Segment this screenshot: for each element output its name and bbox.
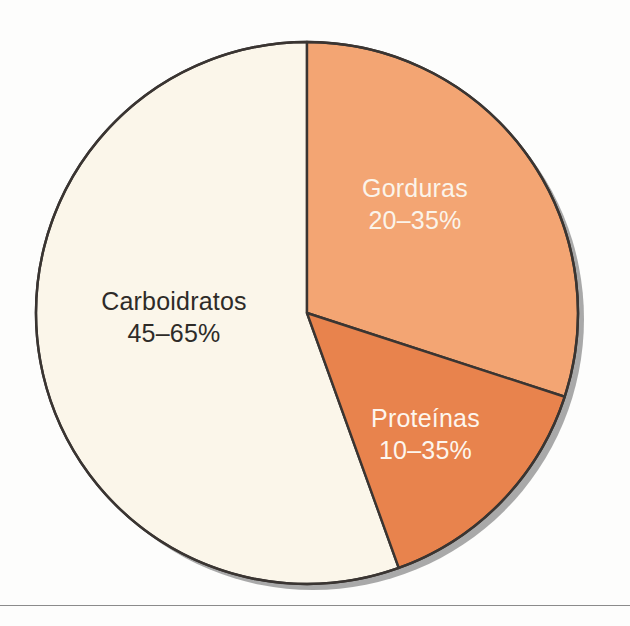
slice-label-carboidratos-name: Carboidratos [78,285,270,317]
baseline-rule [0,605,630,606]
pie-chart-figure: Gorduras 20–35% Proteínas 10–35% Carboid… [0,0,630,626]
slice-label-gorduras: Gorduras 20–35% [340,172,490,236]
slice-label-proteinas-value: 10–35% [358,434,493,466]
slice-label-gorduras-value: 20–35% [340,204,490,236]
slice-label-proteinas-name: Proteínas [358,402,493,434]
slice-label-carboidratos-value: 45–65% [78,317,270,349]
slice-label-proteinas: Proteínas 10–35% [358,402,493,466]
slice-label-gorduras-name: Gorduras [340,172,490,204]
slice-label-carboidratos: Carboidratos 45–65% [78,285,270,349]
